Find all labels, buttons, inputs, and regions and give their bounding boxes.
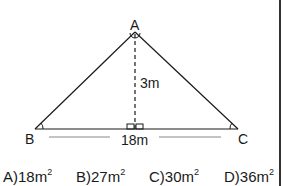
vertex-a-label: A xyxy=(130,18,139,32)
option-a-letter: A) xyxy=(3,168,18,185)
angle-mark-c xyxy=(230,123,232,129)
right-angle-left xyxy=(127,124,134,129)
option-a[interactable]: A)18m2 xyxy=(3,164,52,185)
height-label: 3m xyxy=(140,76,159,90)
option-b-letter: B) xyxy=(76,168,91,185)
option-c[interactable]: C)30m2 xyxy=(149,164,199,185)
option-b-exponent: 2 xyxy=(120,167,125,177)
option-b[interactable]: B)27m2 xyxy=(76,164,125,185)
vertex-b-label: B xyxy=(25,132,34,146)
side-ab xyxy=(35,32,135,129)
option-c-letter: C) xyxy=(149,168,165,185)
option-c-exponent: 2 xyxy=(194,167,199,177)
triangle-diagram xyxy=(0,0,283,186)
option-c-value: 30m xyxy=(165,168,194,185)
base-label: 18m xyxy=(121,133,148,147)
triangle-figure: A B C 3m 18m xyxy=(0,0,283,186)
option-b-value: 27m xyxy=(91,168,120,185)
option-a-value: 18m xyxy=(18,168,47,185)
option-d-letter: D) xyxy=(224,168,240,185)
answer-options: A)18m2 B)27m2 C)30m2 D)36m2 xyxy=(0,164,280,184)
vertex-c-label: C xyxy=(238,132,248,146)
right-angle-right xyxy=(136,124,143,129)
option-d-exponent: 2 xyxy=(269,167,274,177)
right-border xyxy=(279,0,281,186)
option-d-value: 36m xyxy=(240,168,269,185)
option-a-exponent: 2 xyxy=(47,167,52,177)
option-d[interactable]: D)36m2 xyxy=(224,164,274,185)
angle-mark-b xyxy=(41,123,43,129)
